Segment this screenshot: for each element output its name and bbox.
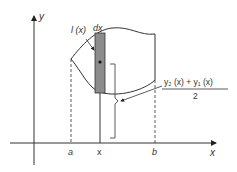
y-axis-label: y [38, 11, 45, 22]
height-bracket [110, 64, 118, 138]
formula-denominator: 2 [193, 91, 198, 101]
lx-leader-arrow [86, 39, 94, 50]
centroid-dot [98, 60, 101, 63]
tick-label-x: x [97, 147, 102, 157]
tick-label-b: b [152, 147, 157, 157]
strip-width-label: dx [93, 23, 103, 33]
strip-length-label: l (x) [71, 25, 86, 35]
diagram-canvas: y x a x b l (x) dx y₂ (x) + y₁ (x) 2 [0, 0, 237, 172]
tick-label-a: a [68, 147, 73, 157]
formula-numerator: y₂ (x) + y₁ (x) [164, 77, 213, 87]
x-axis-label: x [209, 147, 216, 158]
